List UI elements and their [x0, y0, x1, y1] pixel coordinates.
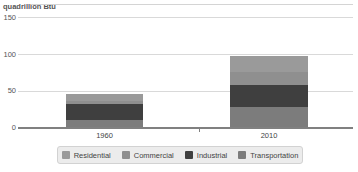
y-tick-label-50: 50	[0, 86, 16, 95]
legend: ResidentialCommercialIndustrialTransport…	[57, 146, 303, 164]
bar-segment-1960-residential[interactable]	[66, 94, 143, 101]
x-tick-label-1960: 1960	[83, 131, 127, 140]
stacked-bar-chart: quadrillion Btu 05010015019602010 Reside…	[0, 0, 358, 172]
chart-top-border	[31, 4, 353, 5]
bar-1960[interactable]	[66, 94, 143, 127]
y-tick-label-0: 0	[0, 123, 16, 132]
bar-segment-1960-industrial[interactable]	[66, 104, 143, 119]
legend-swatch-residential	[62, 151, 70, 159]
bar-segment-2010-residential[interactable]	[230, 56, 308, 72]
bar-segment-2010-transportation[interactable]	[230, 107, 308, 127]
legend-item-transportation[interactable]: Transportation	[238, 151, 298, 160]
bar-2010[interactable]	[230, 56, 308, 128]
y-tick-label-150: 150	[0, 13, 16, 22]
x-tick-label-2010: 2010	[247, 131, 291, 140]
legend-swatch-commercial	[122, 151, 130, 159]
legend-item-residential[interactable]: Residential	[62, 151, 111, 160]
legend-label-commercial: Commercial	[134, 151, 174, 160]
y-tick-label-100: 100	[0, 50, 16, 59]
x-axis-tick	[199, 128, 200, 132]
bar-segment-2010-commercial[interactable]	[230, 72, 308, 85]
legend-label-transportation: Transportation	[250, 151, 298, 160]
legend-item-industrial[interactable]: Industrial	[185, 151, 227, 160]
bar-segment-2010-industrial[interactable]	[230, 85, 308, 107]
legend-swatch-transportation	[238, 151, 246, 159]
legend-swatch-industrial	[185, 151, 193, 159]
gridline-150	[18, 17, 353, 18]
legend-label-industrial: Industrial	[197, 151, 227, 160]
legend-label-residential: Residential	[74, 151, 111, 160]
bar-segment-1960-transportation[interactable]	[66, 120, 143, 128]
legend-item-commercial[interactable]: Commercial	[122, 151, 174, 160]
